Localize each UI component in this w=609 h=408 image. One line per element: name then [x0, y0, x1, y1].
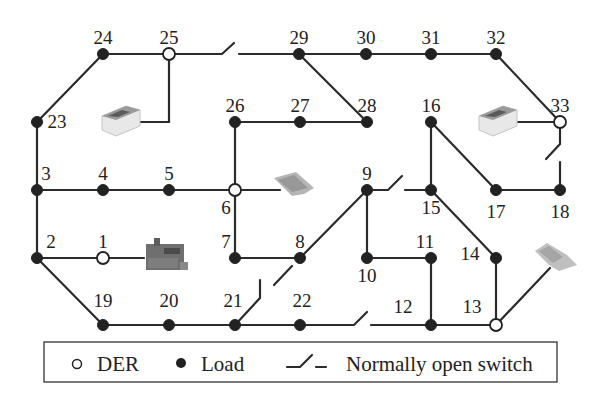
load-node-12 [426, 320, 437, 331]
bus-label-8: 8 [295, 231, 305, 252]
load-node-4 [98, 185, 109, 196]
load-node-14 [491, 253, 502, 264]
der-node-13 [490, 319, 502, 331]
der-node-6 [229, 184, 241, 196]
der-node-33 [554, 116, 566, 128]
bus-label-9: 9 [362, 163, 372, 184]
solar-panel-icon [535, 243, 577, 271]
bus-label-10: 10 [358, 265, 377, 286]
legend-switch-label: Normally open switch [346, 352, 533, 376]
der-node-1 [97, 252, 109, 264]
der-node-25 [163, 48, 175, 60]
open-switch-33-18 [546, 122, 560, 190]
legend-load-label: Load [201, 352, 245, 376]
network-diagram: 1234567891011121314151617181920212223242… [0, 0, 609, 408]
load-node-28 [362, 117, 373, 128]
bus-label-12: 12 [394, 296, 413, 317]
load-node-26 [230, 117, 241, 128]
open-switch-9-15 [367, 176, 431, 190]
bus-label-4: 4 [98, 163, 108, 184]
load-node-2 [32, 253, 43, 264]
bus-label-27: 27 [291, 95, 310, 116]
generator-icon [146, 238, 188, 270]
load-node-21 [230, 320, 241, 331]
bus-label-24: 24 [94, 27, 114, 48]
open-switch-8-9 [274, 190, 367, 285]
load-node-23 [32, 117, 43, 128]
load-node-9 [362, 185, 373, 196]
bus-label-11: 11 [416, 231, 434, 252]
load-node-16 [426, 117, 437, 128]
bus-label-7: 7 [221, 231, 231, 252]
bus-label-21: 21 [224, 290, 243, 311]
bus-label-26: 26 [226, 95, 245, 116]
bus-label-33: 33 [551, 95, 570, 116]
load-node-20 [164, 320, 175, 331]
bus-labels: 1234567891011121314151617181920212223242… [41, 27, 569, 317]
load-node-3 [32, 185, 43, 196]
load-node-29 [294, 49, 305, 60]
bus-label-17: 17 [487, 201, 506, 222]
bus-label-16: 16 [422, 95, 441, 116]
bus-label-28: 28 [358, 95, 377, 116]
open-switch-25-29 [169, 43, 299, 54]
load-node-18 [555, 185, 566, 196]
bus-label-5: 5 [164, 163, 174, 184]
load-node-22 [295, 320, 306, 331]
bus-label-30: 30 [357, 27, 376, 48]
bus-label-15: 15 [422, 197, 441, 218]
der-legend-icon [73, 360, 82, 369]
bus-label-18: 18 [551, 201, 570, 222]
bus-label-25: 25 [160, 27, 179, 48]
legend-der-label: DER [97, 352, 139, 376]
load-node-15 [426, 185, 437, 196]
legend: DER Load Normally open switch [44, 342, 557, 382]
load-node-8 [295, 253, 306, 264]
bus-label-19: 19 [94, 290, 113, 311]
load-node-19 [98, 320, 109, 331]
battery-icon [479, 106, 517, 136]
bus-label-1: 1 [98, 231, 108, 252]
load-node-31 [426, 49, 437, 60]
bus-label-32: 32 [487, 27, 506, 48]
bus-label-3: 3 [41, 163, 51, 184]
der-connection-13 [496, 268, 550, 325]
load-node-7 [230, 253, 241, 264]
load-node-32 [491, 49, 502, 60]
der-connection-25 [138, 54, 169, 122]
bus-label-2: 2 [46, 231, 56, 252]
load-legend-icon [176, 358, 186, 368]
load-node-5 [164, 185, 175, 196]
load-node-11 [426, 253, 437, 264]
battery-icon [102, 106, 140, 136]
bus-label-6: 6 [221, 197, 231, 218]
load-node-10 [362, 253, 373, 264]
load-node-24 [98, 49, 109, 60]
bus-label-13: 13 [463, 296, 482, 317]
bus-label-22: 22 [293, 290, 312, 311]
bus-label-31: 31 [422, 27, 441, 48]
solar-panel-icon [274, 172, 314, 196]
load-node-30 [361, 49, 372, 60]
load-node-27 [295, 117, 306, 128]
bus-label-20: 20 [160, 290, 179, 311]
bus-label-29: 29 [290, 27, 309, 48]
bus-label-23: 23 [48, 111, 67, 132]
load-node-17 [491, 185, 502, 196]
bus-label-14: 14 [461, 243, 481, 264]
